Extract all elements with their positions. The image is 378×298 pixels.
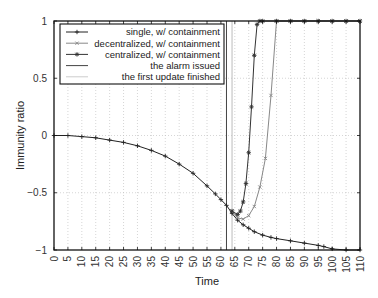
x-tick-label: 30 (132, 256, 143, 268)
x-tick-label: 65 (229, 256, 240, 268)
x-tick-label: 45 (174, 256, 185, 268)
legend: single, w/ containmentdecentralized, w/ … (60, 24, 224, 84)
x-tick-label: 55 (202, 256, 213, 268)
x-tick-label: 95 (313, 256, 324, 268)
legend-entry: single, w/ containment (126, 26, 220, 37)
x-tick-label: 90 (299, 256, 310, 268)
x-axis-label: Time (195, 275, 219, 287)
x-tick-label: 100 (327, 256, 338, 273)
x-tick-label: 25 (118, 256, 129, 268)
x-tick-label: 0 (49, 256, 60, 262)
x-tick-label: 110 (355, 256, 366, 272)
legend-entry: the first update finished (122, 71, 220, 82)
x-tick-label: 40 (160, 256, 171, 268)
series-decentralized (230, 19, 361, 220)
x-tick-label: 105 (341, 256, 352, 273)
y-tick-label: −1 (36, 245, 48, 256)
legend-entry: decentralized, w/ containment (94, 38, 220, 49)
x-tick-label: 20 (104, 256, 115, 268)
y-tick-label: 0 (41, 130, 47, 141)
y-tick-label: 1 (41, 16, 47, 27)
x-tick-label: 5 (62, 256, 73, 262)
y-axis-label: Immunity ratio (14, 101, 26, 170)
x-tick-label: 80 (271, 256, 282, 268)
chart: −1−0.500.51 0510152025303540455055606570… (0, 0, 378, 298)
x-tick-label: 85 (285, 256, 296, 268)
x-tick-label: 70 (243, 256, 254, 268)
y-tick-label: 0.5 (33, 73, 47, 84)
x-tick-label: 15 (90, 256, 101, 268)
series-centralized (230, 19, 362, 217)
y-tick-label: −0.5 (27, 187, 47, 198)
x-tick-label: 60 (215, 256, 226, 268)
x-tick-label: 50 (188, 256, 199, 268)
x-tick-label: 75 (257, 256, 268, 268)
x-tick-label: 35 (146, 256, 157, 268)
x-tick-label: 10 (76, 256, 87, 268)
legend-entry: centralized, w/ containment (105, 49, 220, 60)
legend-entry: the alarm issued (150, 60, 220, 71)
